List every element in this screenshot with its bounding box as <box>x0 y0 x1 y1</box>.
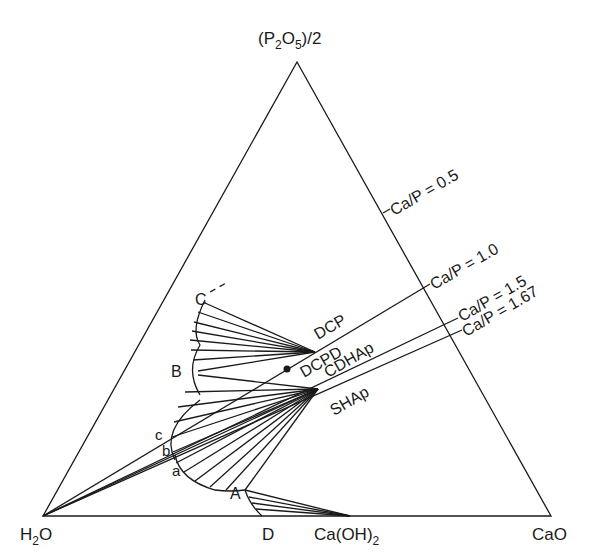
dcpd-point <box>284 366 291 373</box>
point-A-label: A <box>230 485 241 502</box>
point-b-label: b <box>162 442 170 459</box>
vertex-right-label: CaO <box>532 525 567 544</box>
ratio-tick-0.5 <box>383 209 390 213</box>
ratio-label-1.0: Ca/P = 1.0 <box>427 240 501 293</box>
ratio-label-0.5: Ca/P = 0.5 <box>387 166 461 219</box>
caoh2-label: Ca(OH)2 <box>314 525 380 548</box>
point-D-label: D <box>262 525 274 544</box>
point-C-label: C <box>195 291 207 308</box>
point-B-label: B <box>171 363 182 380</box>
shap-tie-lines <box>172 375 318 490</box>
vertex-top-label: (P2O5)/2 <box>258 29 321 52</box>
phase-dcp-label: DCP <box>311 311 349 343</box>
point-c-label: c <box>155 426 163 443</box>
ternary-diagram: (P2O5)/2 H2O CaO Ca(OH)2 D Ca/P = 0.5 Ca… <box>0 0 595 558</box>
dcp-tie-lines <box>190 303 315 371</box>
caoh2-tie-lines <box>245 490 350 516</box>
triangle-outline <box>43 62 551 516</box>
ratio-line-1.5 <box>43 318 458 516</box>
curve-c-dashed <box>210 282 228 292</box>
point-a-label: a <box>172 462 181 479</box>
vertex-left-label: H2O <box>20 525 52 548</box>
h2o-shap-line <box>43 389 318 516</box>
phase-shap-label: SHAp <box>327 383 372 419</box>
